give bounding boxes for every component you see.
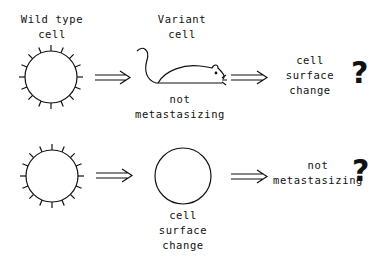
wild-type-cell-icon	[19, 45, 83, 109]
cell-surface-change-label: cell surface change	[280, 53, 340, 98]
wild-type-cell-icon-2	[20, 144, 84, 208]
wild-type-label: Wild type cell	[16, 12, 88, 42]
variant-cell-label: Variant cell	[146, 12, 218, 42]
changed-cell-icon	[155, 148, 211, 204]
question-mark-icon: ?	[351, 58, 368, 88]
double-arrow-icon-2	[231, 71, 267, 84]
cell-surface-change-label-2: cell surface change	[153, 208, 213, 253]
double-arrow-icon-4	[231, 170, 267, 183]
double-arrow-icon	[95, 71, 130, 84]
double-arrow-icon-3	[96, 169, 132, 182]
question-mark-icon-2: ?	[352, 156, 369, 186]
mouse-icon	[137, 48, 227, 85]
not-metastasizing-label: not metastasizing	[130, 92, 230, 122]
